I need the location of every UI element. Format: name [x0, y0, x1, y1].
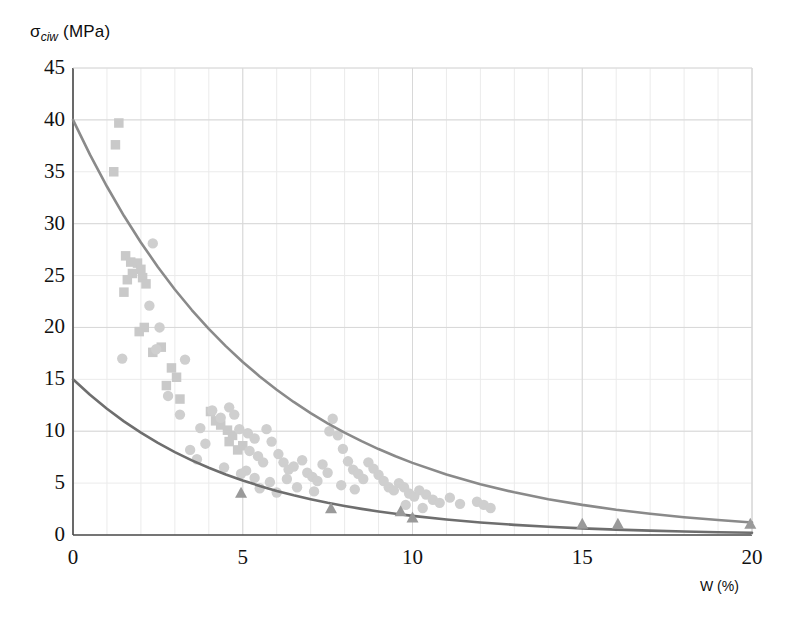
square-marker — [175, 394, 185, 404]
y-tick-label: 25 — [25, 263, 65, 288]
circle-marker — [258, 457, 268, 467]
circle-marker — [229, 409, 239, 419]
x-tick-label: 15 — [562, 545, 602, 570]
square-marker — [136, 265, 146, 275]
circle-marker — [200, 438, 210, 448]
circle-marker — [249, 433, 259, 443]
circle-marker — [455, 499, 465, 509]
figure-root: σciw(MPa) W (%) 051015202530354045 05101… — [0, 0, 805, 627]
circle-marker — [434, 498, 444, 508]
square-marker — [141, 279, 151, 289]
square-marker — [109, 167, 119, 177]
x-tick-label: 10 — [393, 545, 433, 570]
circle-marker — [180, 354, 190, 364]
square-marker — [167, 363, 177, 373]
x-tick-label: 20 — [732, 545, 772, 570]
circle-marker — [292, 482, 302, 492]
circle-marker — [266, 436, 276, 446]
circle-marker — [215, 413, 225, 423]
triangle-marker — [235, 487, 247, 498]
square-marker — [114, 118, 124, 128]
y-tick-label: 5 — [25, 470, 65, 495]
x-tick-label: 0 — [53, 545, 93, 570]
square-marker — [162, 381, 172, 391]
triangle-marker — [612, 518, 624, 529]
circle-marker — [417, 503, 427, 513]
circle-marker — [288, 461, 298, 471]
square-marker — [224, 437, 234, 447]
circle-marker — [117, 353, 127, 363]
y-tick-label: 40 — [25, 107, 65, 132]
y-tick-label: 35 — [25, 159, 65, 184]
x-tick-label: 5 — [223, 545, 263, 570]
circle-marker — [445, 492, 455, 502]
y-tick-label: 0 — [25, 522, 65, 547]
circle-marker — [144, 300, 154, 310]
square-marker — [119, 287, 129, 297]
circle-marker — [297, 455, 307, 465]
y-tick-label: 15 — [25, 366, 65, 391]
circle-marker — [185, 445, 195, 455]
circle-marker — [249, 473, 259, 483]
circle-marker — [350, 484, 360, 494]
circle-marker — [328, 414, 338, 424]
circle-marker — [358, 474, 368, 484]
circle-marker — [485, 503, 495, 513]
triangle-marker — [576, 518, 588, 529]
y-tick-label: 10 — [25, 418, 65, 443]
circle-marker — [309, 486, 319, 496]
circle-marker — [265, 477, 275, 487]
chart-plot-area — [0, 0, 805, 627]
circle-marker — [322, 468, 332, 478]
circle-marker — [312, 476, 322, 486]
circle-marker — [151, 344, 161, 354]
circle-marker — [282, 474, 292, 484]
square-marker — [123, 275, 133, 285]
circle-marker — [154, 322, 164, 332]
circle-marker — [163, 391, 173, 401]
circle-marker — [195, 423, 205, 433]
circle-marker — [175, 409, 185, 419]
circle-marker — [207, 405, 217, 415]
square-marker — [111, 140, 121, 150]
circle-marker — [261, 424, 271, 434]
circle-marker — [148, 238, 158, 248]
y-tick-label: 45 — [25, 55, 65, 80]
square-marker — [134, 327, 144, 337]
circle-marker — [336, 480, 346, 490]
square-marker — [233, 445, 243, 455]
circle-marker — [338, 444, 348, 454]
y-tick-label: 30 — [25, 211, 65, 236]
y-tick-label: 20 — [25, 314, 65, 339]
square-marker — [172, 373, 182, 383]
